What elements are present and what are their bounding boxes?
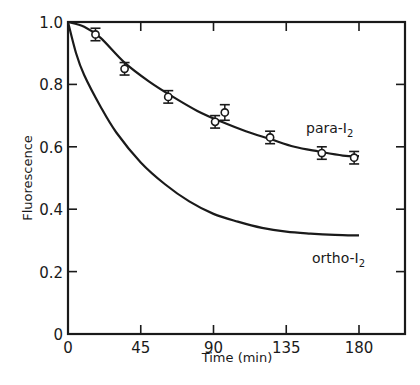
para-I2-curve — [68, 22, 359, 156]
x-tick-label: 0 — [63, 339, 73, 357]
plot-border — [68, 22, 405, 334]
data-points — [90, 28, 359, 164]
y-tick-label: 0.8 — [39, 76, 63, 94]
x-tick-label: 45 — [131, 339, 150, 357]
x-axis-ticks: 04590135180 — [63, 22, 373, 357]
y-axis-title: Fluorescence — [20, 135, 35, 221]
data-point — [317, 147, 327, 159]
data-point — [265, 131, 275, 143]
y-tick-label: 0.2 — [39, 264, 63, 282]
x-axis-title: Time (min) — [201, 350, 273, 365]
y-axis-ticks: 00.20.40.60.81.0 — [39, 14, 405, 344]
plot-frame — [68, 22, 405, 334]
y-tick-label: 1.0 — [39, 14, 63, 32]
x-tick-label: 135 — [272, 339, 301, 357]
y-tick-label: 0 — [53, 326, 63, 344]
para-I2-label: para-I2 — [306, 120, 353, 139]
x-tick-label: 180 — [345, 339, 374, 357]
data-point — [349, 151, 359, 163]
ortho-I2-label: ortho-I2 — [312, 250, 365, 269]
data-point — [220, 105, 230, 121]
y-tick-label: 0.4 — [39, 201, 63, 219]
y-tick-label: 0.6 — [39, 139, 63, 157]
chart: 04590135180 00.20.40.60.81.0 Time (min) … — [0, 0, 420, 385]
series-labels: para-I2ortho-I2 — [306, 120, 365, 269]
